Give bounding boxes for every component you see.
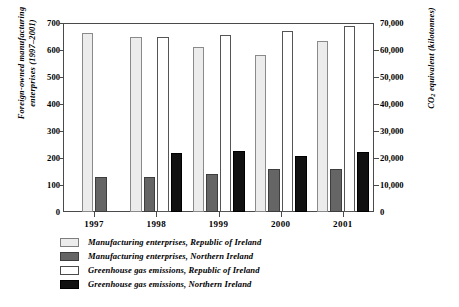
legend-swatch-icon xyxy=(60,252,79,261)
bar-2001-series1 xyxy=(330,169,342,212)
bar-1999-series1 xyxy=(206,174,218,212)
bar-2000-series0 xyxy=(255,55,267,212)
bar-1999-series0 xyxy=(193,47,205,212)
y-axis-right-tick-label: 40,000 xyxy=(380,99,432,109)
legend-item: Greenhouse gas emissions, Northern Irela… xyxy=(60,277,390,291)
y-axis-right-ticklabels: 010,00020,00030,00040,00050,00060,00070,… xyxy=(380,23,436,212)
x-axis-label-1998: 1998 xyxy=(126,219,186,229)
y-axis-left-ticklabels: 0100200300400500600700 xyxy=(12,23,60,212)
y-axis-right-tick-label: 30,000 xyxy=(380,126,432,136)
y-axis-left-tick-label: 700 xyxy=(14,18,60,28)
x-axis-label-1997: 1997 xyxy=(64,219,124,229)
bars-layer xyxy=(63,23,374,212)
x-axis-tickmarks xyxy=(63,212,374,218)
bar-2001-series0 xyxy=(317,41,329,212)
legend-item-label: Greenhouse gas emissions, Republic of Ir… xyxy=(88,265,260,275)
bar-2000-series1 xyxy=(268,169,280,212)
y-axis-right-tick-label: 0 xyxy=(380,207,432,217)
legend-item: Greenhouse gas emissions, Republic of Ir… xyxy=(60,263,390,277)
x-axis-tickmark xyxy=(343,212,344,217)
y-axis-left-tick-label: 400 xyxy=(14,99,60,109)
y-axis-right-tickmark xyxy=(374,131,379,132)
y-axis-right-tick-label: 20,000 xyxy=(380,153,432,163)
x-axis-label-1999: 1999 xyxy=(189,219,249,229)
x-axis-label-2000: 2000 xyxy=(251,219,311,229)
y-axis-left-tick-label: 0 xyxy=(14,207,60,217)
y-axis-left-tick-label: 200 xyxy=(14,153,60,163)
x-axis-tickmark xyxy=(156,212,157,217)
y-axis-left-tick-label: 300 xyxy=(14,126,60,136)
bar-2001-series3 xyxy=(357,152,369,212)
x-axis-tickmark xyxy=(281,212,282,217)
y-axis-right-tick-label: 10,000 xyxy=(380,180,432,190)
chart-figure: Foreign-owned manufacturingenterprises (… xyxy=(0,0,459,307)
legend-swatch-icon xyxy=(60,266,79,275)
y-axis-right-tick-label: 50,000 xyxy=(380,72,432,82)
bar-1998-series1 xyxy=(144,177,156,212)
y-axis-right-tick-label: 70,000 xyxy=(380,18,432,28)
legend-swatch-icon xyxy=(60,238,79,247)
legend-item-label: Manufacturing enterprises, Republic of I… xyxy=(88,237,261,247)
bar-1997-series0 xyxy=(82,33,94,212)
legend-item: Manufacturing enterprises, Republic of I… xyxy=(60,235,390,249)
bar-1999-series3 xyxy=(233,151,245,212)
x-axis-tickmark xyxy=(94,212,95,217)
y-axis-right-tickmark xyxy=(374,50,379,51)
bar-2001-series2 xyxy=(344,26,356,212)
y-axis-right-tickmarks xyxy=(374,23,380,212)
y-axis-right-tickmark xyxy=(374,104,379,105)
bar-1998-series2 xyxy=(157,37,169,212)
legend-item: Manufacturing enterprises, Northern Irel… xyxy=(60,249,390,263)
bar-1999-series2 xyxy=(220,35,232,212)
chart-legend: Manufacturing enterprises, Republic of I… xyxy=(60,235,390,291)
bar-1998-series0 xyxy=(130,37,142,212)
legend-item-label: Greenhouse gas emissions, Northern Irela… xyxy=(88,279,251,289)
bar-1998-series3 xyxy=(171,153,183,212)
legend-item-label: Manufacturing enterprises, Northern Irel… xyxy=(88,251,253,261)
x-axis-label-2001: 2001 xyxy=(313,219,373,229)
bar-2000-series3 xyxy=(295,156,307,212)
bar-1997-series1 xyxy=(95,177,107,212)
x-axis-labels: 19971998199920002001 xyxy=(63,219,374,232)
x-axis-tickmark xyxy=(219,212,220,217)
bar-2000-series2 xyxy=(282,31,294,212)
y-axis-left-tick-label: 500 xyxy=(14,72,60,82)
y-axis-left-tick-label: 600 xyxy=(14,45,60,55)
y-axis-right-tick-label: 60,000 xyxy=(380,45,432,55)
y-axis-left-tick-label: 100 xyxy=(14,180,60,190)
y-axis-right-tickmark xyxy=(374,185,379,186)
legend-swatch-icon xyxy=(60,280,79,289)
y-axis-right-tickmark xyxy=(374,158,379,159)
y-axis-right-tickmark xyxy=(374,77,379,78)
